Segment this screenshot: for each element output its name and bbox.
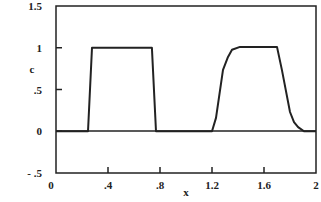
y-axis-label: c [30, 63, 35, 75]
line-chart: 1.51.50- .5 0.4.81.21.62 c x [0, 0, 321, 202]
plot-frame [56, 6, 316, 173]
y-axis: 1.51.50- .5 [27, 0, 62, 179]
x-axis-label: x [183, 186, 189, 198]
y-tick-label: 0 [37, 125, 43, 137]
x-tick-label: .8 [156, 179, 165, 191]
x-tick-label: .4 [104, 179, 113, 191]
x-tick-label: 1.6 [257, 179, 271, 191]
x-tick-label: 1.2 [205, 179, 219, 191]
data-line [56, 47, 316, 131]
y-tick-label: .5 [34, 84, 43, 96]
y-tick-label: 1.5 [28, 0, 42, 12]
y-tick-label: 1 [37, 42, 43, 54]
y-tick-label: - .5 [27, 167, 42, 179]
x-tick-label: 2 [313, 179, 319, 191]
x-tick-label: 0 [48, 179, 54, 191]
